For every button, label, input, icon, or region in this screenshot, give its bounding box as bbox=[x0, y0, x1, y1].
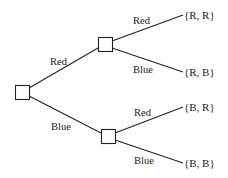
edge-label-red: Red bbox=[50, 56, 68, 67]
outcome-br: {B, R} bbox=[184, 101, 215, 113]
node-red bbox=[99, 38, 113, 52]
outcome-rb: {R, B} bbox=[184, 66, 215, 78]
edge-root-to-red bbox=[29, 48, 98, 88]
edge-label-blue: Blue bbox=[51, 121, 71, 132]
outcome-rr: {R, R} bbox=[184, 9, 215, 21]
edge-label-blue-red: Red bbox=[134, 107, 152, 118]
edge-label-red-blue: Blue bbox=[133, 64, 153, 75]
edge-label-red-red: Red bbox=[133, 15, 151, 26]
root-node bbox=[16, 86, 30, 100]
node-blue bbox=[102, 130, 116, 144]
probability-tree-diagram: Red Blue Red Blue Red Blue {R, R} {R, B}… bbox=[0, 0, 228, 178]
edge-label-blue-blue: Blue bbox=[134, 155, 154, 166]
outcome-bb: {B, B} bbox=[184, 157, 215, 169]
